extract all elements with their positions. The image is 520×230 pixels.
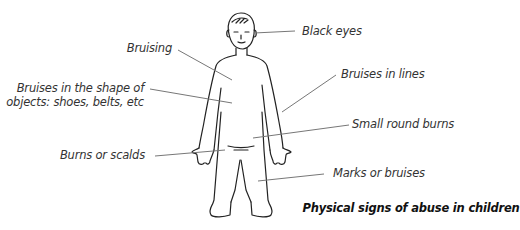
label-small-round-burns: Small round burns	[352, 117, 454, 132]
leader-bruising	[178, 50, 232, 80]
leader-burns-scalds	[155, 150, 225, 156]
leader-marks-bruises	[258, 174, 324, 181]
label-burns-scalds: Burns or scalds	[60, 148, 145, 163]
leader-bruises-lines	[282, 75, 336, 112]
leader-black-eyes	[254, 31, 295, 33]
leader-lines	[150, 31, 349, 181]
label-marks-bruises: Marks or bruises	[333, 166, 425, 181]
diagram-caption: Physical signs of abuse in children	[302, 201, 519, 215]
label-black-eyes: Black eyes	[302, 24, 362, 39]
label-bruising: Bruising	[127, 41, 172, 56]
label-bruises-shape-line2: objects: shoes, belts, etc	[6, 95, 144, 110]
label-bruises-in-lines: Bruises in lines	[341, 67, 425, 82]
child-outline	[192, 13, 291, 217]
label-bruises-shape-line1: Bruises in the shape of	[17, 81, 144, 96]
